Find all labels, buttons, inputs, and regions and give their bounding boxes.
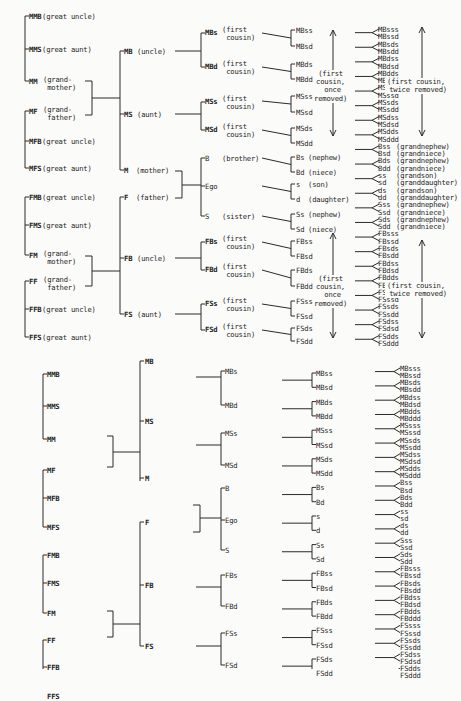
kin-code-fbds: FBds bbox=[296, 267, 313, 275]
kin-code-mb: MB bbox=[124, 48, 132, 56]
kin-code-msdd-unlabeled: MSdd bbox=[316, 470, 333, 478]
kin-code-b: B bbox=[205, 155, 209, 163]
kin-code-mssd: MSsd bbox=[296, 109, 313, 117]
kin-code-ss: Ss bbox=[296, 211, 304, 219]
kin-gloss-mb: (uncle) bbox=[137, 48, 166, 56]
kin-code-sd-unlabeled: Sd bbox=[316, 556, 324, 564]
kin-code-bs-unlabeled: Bs bbox=[316, 484, 324, 492]
kin-gloss-s: (son) bbox=[308, 181, 329, 189]
kin-code-mss-unlabeled: MSs bbox=[225, 430, 237, 438]
kin-code-msd: MSd bbox=[205, 126, 217, 134]
kin-code-fs: FS bbox=[124, 311, 132, 319]
annotation-once-removed: (first cousin, once removed) bbox=[314, 275, 347, 308]
kin-code-fbdd-unlabeled: FBdd bbox=[316, 613, 333, 621]
kin-gloss-bd: (niece) bbox=[308, 169, 337, 177]
kin-code-mss: MSs bbox=[205, 98, 217, 106]
kin-gloss-mf: (grand- father) bbox=[43, 106, 76, 122]
kin-code-fss-unlabeled: FSs bbox=[225, 630, 237, 638]
kin-gloss-mms: (great aunt) bbox=[42, 46, 92, 54]
annotation-twice-removed: (first cousin, twice removed) bbox=[385, 282, 447, 298]
kin-code-mbss-unlabeled: MBss bbox=[316, 370, 333, 378]
kin-code-mms-unlabeled: MMS bbox=[47, 403, 59, 411]
kin-code-fbsd: FBsd bbox=[296, 253, 313, 261]
kin-code-fm-unlabeled: FM bbox=[47, 610, 55, 618]
kin-gloss-mmb: (great uncle) bbox=[42, 13, 96, 21]
annotation-twice-removed: (first cousin, twice removed) bbox=[385, 78, 447, 94]
kin-gloss-fsd: (first cousin) bbox=[222, 323, 255, 339]
kin-code-fms-unlabeled: FMS bbox=[47, 580, 59, 588]
kin-code-fb-unlabeled: FB bbox=[145, 582, 153, 590]
kin-code-bs: Bs bbox=[296, 154, 304, 162]
kin-code-mssd-unlabeled: MSsd bbox=[316, 442, 333, 450]
kin-code-s: s bbox=[296, 181, 300, 189]
kin-gloss-d: (daughter) bbox=[308, 196, 349, 204]
kin-gloss-fbs: (first cousin) bbox=[222, 235, 255, 251]
kin-code-m-unlabeled: M bbox=[145, 475, 149, 483]
kin-gloss-ffb: (great uncle) bbox=[42, 306, 96, 314]
kin-code-fbss: FBss bbox=[296, 238, 313, 246]
kin-code-f-unlabeled: F bbox=[145, 519, 149, 527]
kin-code-mmb-unlabeled: MMB bbox=[47, 371, 59, 379]
kin-code-mbd: MBd bbox=[205, 63, 217, 71]
kin-gloss-b: (brother) bbox=[222, 155, 259, 163]
kin-code-fsddd: FSddd bbox=[378, 340, 399, 348]
kin-code-mb-unlabeled: MB bbox=[145, 358, 153, 366]
kin-gloss-fb: (uncle) bbox=[137, 255, 166, 263]
kin-code-s-unlabeled: S bbox=[225, 547, 229, 555]
kin-code-ffs: FFS bbox=[29, 334, 41, 342]
kin-code-fmb-unlabeled: FMB bbox=[47, 552, 59, 560]
kin-code-fbds-unlabeled: FBds bbox=[316, 599, 333, 607]
kin-code-ss-unlabeled: Ss bbox=[316, 542, 324, 550]
kin-code-ff-unlabeled: FF bbox=[47, 637, 55, 645]
kin-code-fbs: FBs bbox=[205, 238, 217, 246]
kin-code-fssd: FSsd bbox=[296, 313, 313, 321]
kin-code-m: M bbox=[124, 167, 128, 175]
kin-code-msss-unlabeled: MSss bbox=[316, 427, 333, 435]
kin-code-ff: FF bbox=[29, 278, 37, 286]
kin-code-mfs-unlabeled: MFS bbox=[47, 524, 59, 532]
kin-code-msd-unlabeled: MSd bbox=[225, 462, 237, 470]
kin-code-fbss-unlabeled: FBss bbox=[316, 570, 333, 578]
kin-gloss-msd: (first cousin) bbox=[222, 123, 255, 139]
kin-code-mfs: MFS bbox=[29, 165, 41, 173]
kin-code-bd-unlabeled: Bd bbox=[316, 499, 324, 507]
kin-gloss-fbd: (first cousin) bbox=[222, 263, 255, 279]
kin-code-mbsd-unlabeled: MBsd bbox=[316, 384, 333, 392]
kin-code-b-unlabeled: B bbox=[225, 485, 229, 493]
kin-code-mf-unlabeled: MF bbox=[47, 467, 55, 475]
kin-code-mms: MMS bbox=[29, 46, 41, 54]
kin-gloss-mfs: (great aunt) bbox=[42, 165, 92, 173]
kin-code-fs-unlabeled: FS bbox=[145, 643, 153, 651]
kin-code-s: S bbox=[205, 213, 209, 221]
kin-code-fssd-unlabeled: FSsd bbox=[316, 642, 333, 650]
kin-gloss-ffs: (great aunt) bbox=[42, 334, 92, 342]
kin-gloss-ms: (aunt) bbox=[137, 111, 162, 119]
kin-code-sd: Sd bbox=[296, 226, 304, 234]
kin-gloss-ff: (grand- father) bbox=[43, 276, 76, 292]
kin-code-msds-unlabeled: MSds bbox=[316, 456, 333, 464]
kin-code-mf: MF bbox=[29, 108, 37, 116]
kin-code-ego: Ego bbox=[205, 183, 217, 191]
kin-code-mbds-unlabeled: MBds bbox=[316, 399, 333, 407]
kin-gloss-mfb: (great uncle) bbox=[42, 138, 96, 146]
kin-code-fss: FSs bbox=[205, 300, 217, 308]
kin-code-mm-unlabeled: MM bbox=[47, 436, 55, 444]
kin-code-fm: FM bbox=[29, 252, 37, 260]
kin-gloss-ss: (nephew) bbox=[308, 211, 341, 219]
kin-code-fsddd-unlabeled: FSddd bbox=[400, 672, 421, 680]
kin-code-ffb: FFB bbox=[29, 306, 41, 314]
kin-gloss-sd: (niece) bbox=[308, 226, 337, 234]
kin-gloss-mbs: (first cousin) bbox=[222, 26, 255, 42]
kin-code-fbdd: FBdd bbox=[296, 283, 313, 291]
kin-code-s-unlabeled: s bbox=[316, 513, 320, 521]
kin-gloss-fss: (first cousin) bbox=[222, 297, 255, 313]
kin-code-mbsd: MBsd bbox=[296, 43, 313, 51]
kin-code-ego-unlabeled: Ego bbox=[225, 517, 237, 525]
kin-gloss-fmb: (great uncle) bbox=[42, 194, 96, 202]
kin-code-mfb: MFB bbox=[29, 138, 41, 146]
kin-code-fsss-unlabeled: FSss bbox=[316, 627, 333, 635]
kin-code-mbd-unlabeled: MBd bbox=[225, 402, 237, 410]
kin-code-f: F bbox=[124, 194, 128, 202]
kin-code-fbd-unlabeled: FBd bbox=[225, 603, 237, 611]
